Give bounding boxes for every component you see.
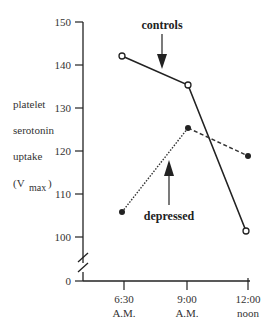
data-point-depressed xyxy=(245,153,251,159)
data-point-depressed xyxy=(119,209,125,215)
axis-break-mark xyxy=(78,263,88,272)
svg-text:150: 150 xyxy=(55,16,72,28)
y-axis-label: platelet serotonin uptake (V max ) xyxy=(13,98,54,193)
chart: 150 140 130 120 110 100 0 platelet serot… xyxy=(0,0,276,334)
series-controls xyxy=(119,53,249,234)
annotation-controls: controls xyxy=(141,18,182,69)
svg-text:controls: controls xyxy=(141,18,182,32)
svg-text:100: 100 xyxy=(55,231,72,243)
svg-text:12:00: 12:00 xyxy=(235,293,261,305)
y-ticks xyxy=(75,22,83,281)
data-point-controls xyxy=(243,228,249,234)
svg-text:9:00: 9:00 xyxy=(177,293,197,305)
svg-text:noon: noon xyxy=(237,307,260,319)
svg-text:): ) xyxy=(48,177,52,190)
arrow-down-icon xyxy=(157,54,167,69)
arrow-up-icon xyxy=(164,160,174,176)
svg-text:0: 0 xyxy=(66,275,72,287)
svg-text:uptake: uptake xyxy=(13,150,42,162)
svg-text:serotonin: serotonin xyxy=(13,124,54,136)
series-depressed xyxy=(119,125,251,215)
data-point-controls xyxy=(185,82,191,88)
svg-text:120: 120 xyxy=(55,145,72,157)
y-tick-labels: 150 140 130 120 110 100 0 xyxy=(55,16,72,287)
x-ticks xyxy=(124,278,248,290)
svg-text:A.M.: A.M. xyxy=(175,307,198,319)
svg-text:130: 130 xyxy=(55,102,72,114)
svg-text:110: 110 xyxy=(55,188,72,200)
svg-text:6:30: 6:30 xyxy=(114,293,134,305)
svg-text:platelet: platelet xyxy=(13,98,45,110)
data-point-depressed xyxy=(185,125,191,131)
x-tick-labels: 6:30 A.M. 9:00 A.M. 12:00 noon xyxy=(112,293,261,319)
svg-text:(V: (V xyxy=(13,177,25,190)
svg-text:max: max xyxy=(29,182,46,193)
svg-text:A.M.: A.M. xyxy=(112,307,135,319)
annotation-depressed: depressed xyxy=(144,160,195,223)
data-point-controls xyxy=(119,53,125,59)
svg-text:140: 140 xyxy=(55,59,72,71)
svg-text:depressed: depressed xyxy=(144,209,195,223)
